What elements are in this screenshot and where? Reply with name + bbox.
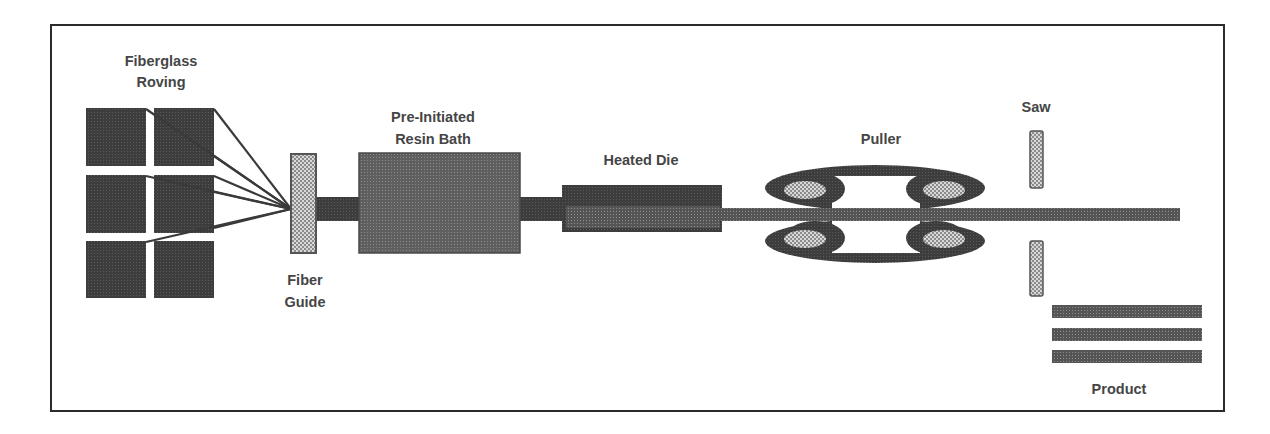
- fiber-bundle-wet: [518, 197, 564, 221]
- fiber-guide-label-line1: Fiber: [287, 272, 323, 288]
- product-bar: [1052, 350, 1202, 363]
- saw-label: Saw: [1021, 99, 1051, 115]
- pultrusion-diagram: Fiberglass Roving Fiber Guide Pre-Initia…: [0, 0, 1270, 434]
- product-stack: [1052, 305, 1202, 363]
- fiberglass-roving-spools: [86, 108, 214, 298]
- puller-roller: [784, 230, 826, 248]
- roving-spool: [86, 175, 146, 233]
- roving-spool: [86, 241, 146, 298]
- roving-spool: [154, 241, 214, 298]
- product-label: Product: [1092, 381, 1147, 397]
- product-bar: [1052, 328, 1202, 341]
- roving-spool: [86, 108, 146, 166]
- puller-roller: [923, 230, 965, 248]
- roving-spool: [154, 108, 214, 166]
- resin-bath-label-line2: Resin Bath: [395, 131, 471, 147]
- saw-blade-top: [1030, 131, 1043, 188]
- roving-label-line2: Roving: [136, 74, 185, 90]
- saw-blade-bottom: [1030, 241, 1043, 296]
- heated-die: [562, 185, 722, 232]
- resin-bath-label-line1: Pre-Initiated: [391, 109, 475, 125]
- fiber-guide-label-line2: Guide: [284, 294, 325, 310]
- product-bar: [1052, 305, 1202, 318]
- fiber-bundle: [314, 197, 364, 221]
- puller-label: Puller: [861, 131, 902, 147]
- puller-roller: [923, 181, 965, 199]
- resin-bath-tank: [359, 153, 520, 253]
- fiber-guide-plate: [291, 154, 316, 253]
- heated-die-label: Heated Die: [604, 152, 679, 168]
- cured-profile: [720, 208, 1180, 221]
- roving-label-line1: Fiberglass: [125, 53, 198, 69]
- puller-roller: [784, 181, 826, 199]
